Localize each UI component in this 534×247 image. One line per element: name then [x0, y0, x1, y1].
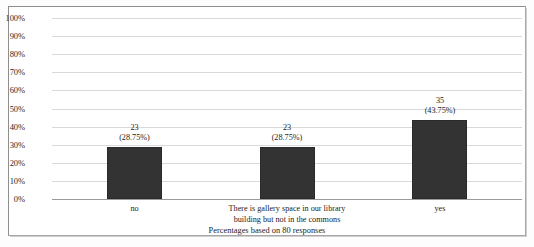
- y-axis-tick-label: 20%: [0, 159, 25, 168]
- bar-percent-label: (28.75%): [74, 133, 194, 144]
- bar-percent-label: (43.75%): [380, 106, 500, 117]
- bar-value-label: 23 (28.75%): [74, 123, 194, 144]
- bar-no[interactable]: [107, 147, 162, 199]
- gridline: [52, 90, 522, 91]
- x-axis-category-label-gallery: There is gallery space in our library bu…: [187, 204, 387, 225]
- page-frame: 100%90%80%70%60%50%40%30%20%10%0% 23 (28…: [8, 6, 526, 236]
- bar-value-label: 23 (28.75%): [227, 123, 347, 144]
- y-axis-tick-label: 50%: [0, 105, 25, 114]
- plot-area: 100%90%80%70%60%50%40%30%20%10%0% 23 (28…: [52, 18, 522, 199]
- x-axis-category-label-no: no: [74, 204, 194, 215]
- category-line: no: [130, 204, 138, 213]
- gridline: [52, 18, 522, 19]
- category-line: yes: [435, 204, 446, 213]
- y-axis-tick-label: 100%: [0, 14, 25, 23]
- gridline: [52, 72, 522, 73]
- y-axis-tick-label: 10%: [0, 177, 25, 186]
- category-line: There is gallery space in our library: [229, 204, 346, 213]
- chart-footnote: Percentages based on 80 responses: [9, 226, 525, 237]
- gridline: [52, 36, 522, 37]
- y-axis-tick-label: 60%: [0, 86, 25, 95]
- x-axis-category-label-yes: yes: [380, 204, 500, 215]
- y-axis-tick-label: 0%: [0, 195, 25, 204]
- y-axis-tick-label: 40%: [0, 123, 25, 132]
- y-axis-tick-label: 80%: [0, 50, 25, 59]
- bar-chart-figure: 100%90%80%70%60%50%40%30%20%10%0% 23 (28…: [0, 0, 534, 247]
- bar-count-label: 23: [74, 123, 194, 134]
- y-axis-tick-label: 30%: [0, 141, 25, 150]
- bar-yes[interactable]: [412, 120, 467, 199]
- gridline: [52, 54, 522, 55]
- bar-value-label: 35 (43.75%): [380, 96, 500, 117]
- y-axis-tick-label: 90%: [0, 32, 25, 41]
- bar-gallery-space-not-commons[interactable]: [260, 147, 315, 199]
- bar-count-label: 23: [227, 123, 347, 134]
- y-axis-tick-label: 70%: [0, 68, 25, 77]
- x-axis-baseline: [52, 199, 522, 200]
- bar-count-label: 35: [380, 96, 500, 107]
- bar-percent-label: (28.75%): [227, 133, 347, 144]
- category-line: building but not in the commons: [234, 215, 341, 224]
